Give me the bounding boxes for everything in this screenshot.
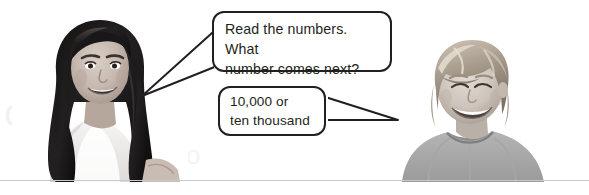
photo-boy xyxy=(398,34,574,182)
watermark-text-3: o xyxy=(186,140,202,171)
page-canvas: hmhco C o xyxy=(0,0,589,195)
question-line-1: Read the numbers. What xyxy=(225,21,347,57)
speech-bubble-answer: 10,000 or ten thousand xyxy=(218,86,326,136)
speech-bubble-answer-text: 10,000 or ten thousand xyxy=(230,92,316,130)
speech-bubble-question: Read the numbers. What number comes next… xyxy=(212,11,392,72)
question-line-2: number comes next? xyxy=(225,61,359,77)
speech-tail-answer xyxy=(318,92,402,132)
bottom-divider xyxy=(0,180,589,181)
answer-line-2: ten thousand xyxy=(230,113,310,128)
speech-bubble-question-text: Read the numbers. What number comes next… xyxy=(225,19,382,79)
answer-line-1: 10,000 or xyxy=(230,94,288,109)
